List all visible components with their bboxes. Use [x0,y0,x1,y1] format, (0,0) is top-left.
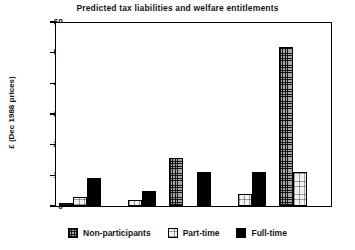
bar [252,172,266,206]
light-swatch [168,228,178,238]
bar [279,47,293,206]
legend-item-label: Full-time [251,228,286,238]
bar [128,200,142,206]
legend-item[interactable]: Full-time [236,228,286,238]
bar-group [56,22,111,206]
bar [169,158,183,206]
chart-title: Predicted tax liabilities and welfare en… [0,3,355,13]
bar-group [111,22,166,206]
legend-item[interactable]: Part-time [168,228,220,238]
y-axis-title: £ (Dec 1988 prices) [7,48,16,178]
bar [87,178,101,206]
chart-legend: Non-participantsPart-timeFull-time [0,228,355,238]
bar-group [166,22,221,206]
chart-container: Predicted tax liabilities and welfare en… [0,0,355,250]
legend-item-label: Part-time [183,228,220,238]
bar [59,203,73,206]
bar [197,172,211,206]
bar-group [276,22,331,206]
bar [73,197,87,206]
bar [238,194,252,206]
legend-item-label: Non-participants [83,228,151,238]
solid-black-swatch [236,228,246,238]
bars-layer [56,22,331,206]
bar [142,191,156,206]
bar [293,172,307,206]
crosshatch-swatch [68,228,78,238]
bar-group [221,22,276,206]
legend-item[interactable]: Non-participants [68,228,151,238]
